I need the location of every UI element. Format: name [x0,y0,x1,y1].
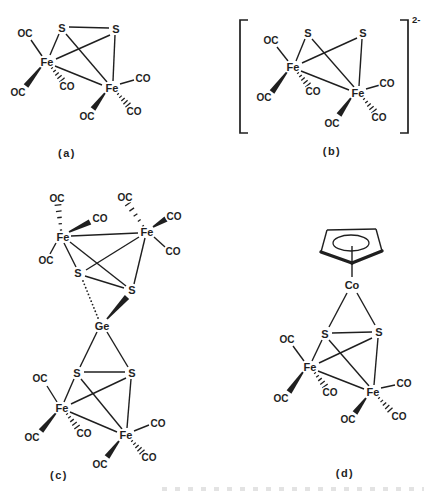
bond-dot [88,294,90,296]
bond-hash-tick [383,402,386,405]
bond-dot [96,314,98,316]
bond-hash-tick [123,100,127,104]
bond-hash-tick [301,78,304,81]
ligand-label-oc: OC [33,373,48,384]
cropped-caption-artifact [162,487,424,491]
atom-label-s: S [58,22,65,34]
bond-hash-tick [72,422,76,425]
bond-wedge [337,97,352,116]
atom-label-s: S [128,367,135,379]
ligand-label-oc: OC [341,414,356,425]
ligand-label-co: CO [372,112,387,123]
atom-label-s: S [112,23,119,35]
ligand-label-co: CO [151,418,166,429]
bond-hash-tick [56,211,62,212]
ligand-label-co: CO [397,378,412,389]
bond-dot [92,304,94,306]
ligand-label-co: CO [77,428,92,439]
bond-line [312,340,322,361]
bond-line [134,238,145,284]
bond-wedge [24,66,42,87]
structure-a: SSFeFeOCOCCOCOOCCO(a) [11,22,151,159]
bond-wedge [353,397,367,414]
bond-wedge [153,217,168,228]
atom-label-s: S [321,328,328,340]
chemical-structures-svg: SSFeFeOCOCCOCOOCCO(a)SSFeFeOCOCCOCOOCCO2… [0,0,427,492]
bond-wedge [69,219,92,232]
figure-caption-c: (c) [50,469,68,481]
bond-line [127,379,131,428]
atom-label-fe: Fe [304,361,317,373]
bond-line [69,27,109,28]
bond-line [50,243,56,254]
atom-label-fe: Fe [120,429,133,441]
bond-dot [90,300,92,302]
ligand-label-oc: OC [274,393,289,404]
bond-hash-tick [299,75,302,77]
bond-wedge [105,440,120,458]
ligand-label-co: CO [127,106,142,117]
bond-line [154,237,165,247]
atom-label-fe: Fe [352,87,365,99]
bond-hash-tick [318,378,322,381]
bond-hash-tick [369,106,373,110]
bond-hash-tick [119,96,121,98]
figure-caption-a: (a) [58,147,76,159]
bond-line [81,379,122,429]
ligand-label-oc: OC [50,193,65,204]
atom-label-fe: Fe [57,231,70,243]
bond-line [107,332,128,367]
bond-line [86,237,139,270]
bond-line [376,229,382,251]
bond-hash-tick [316,375,319,377]
bond-dot [85,287,87,289]
bond-hash-tick [134,214,138,217]
bond-hash-tick [135,445,138,448]
bond-line [366,85,380,89]
bond-line [64,243,76,267]
bond-hash-tick [365,101,368,103]
bond-dot [83,283,85,285]
bond-line [296,39,305,61]
ligand-label-oc: OC [118,192,133,203]
atom-label-s: S [128,284,135,296]
bond-line [80,332,97,367]
atom-label-s: S [359,27,366,39]
bond-line [327,229,376,230]
atom-label-fe: Fe [106,82,119,94]
figure-caption-b: (b) [323,145,342,157]
ligand-label-co: CO [323,387,338,398]
cp-ring-ellipse [333,235,369,251]
atom-label-co: Co [345,279,360,291]
bond-line [120,80,134,84]
charge-bracket [240,20,248,133]
bond-hash-tick [57,217,61,218]
bond-hash-tick [55,205,62,206]
bond-hash-tick [381,400,383,402]
bond-wedge [270,71,288,93]
bond-dot [89,297,91,299]
ligand-label-oc: OC [25,432,40,443]
bond-wedge [39,412,57,432]
atom-label-fe: Fe [141,226,154,238]
structure-c: FeFeSSGeSSFeFeOCCOOCOCCOCOOCOCCOCOOCCO(c… [25,192,182,482]
bond-hash-tick [68,416,71,418]
ligand-label-oc: OC [11,87,26,98]
atom-label-fe: Fe [287,61,300,73]
bond-line [56,35,110,59]
ligand-label-co: CO [392,411,407,422]
ligand-label-oc: OC [325,118,340,129]
bond-line [374,338,378,385]
figure-canvas: SSFeFeOCOCCOCOOCCO(a)SSFeFeOCOCCOCOOCCO2… [0,0,427,492]
bond-wedge [287,371,304,393]
bond-dot [82,280,84,282]
ligand-label-oc: OC [264,35,279,46]
bond-line [31,40,42,56]
ligand-label-co: CO [306,86,321,97]
bond-hash-tick [138,220,141,222]
atom-label-s: S [73,367,80,379]
atom-label-ge: Ge [95,320,110,332]
bond-line [329,293,347,327]
bond-line [113,35,115,81]
bond-line [71,233,138,236]
